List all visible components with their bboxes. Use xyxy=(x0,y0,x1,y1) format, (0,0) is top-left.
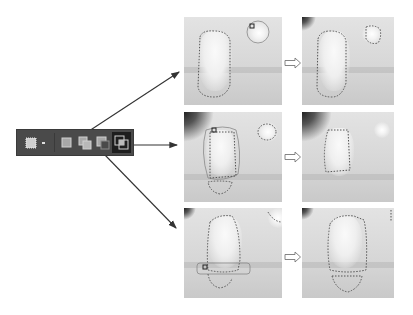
selection-marquee xyxy=(184,208,282,298)
new-selection-icon[interactable] xyxy=(60,135,74,149)
subtract-from-selection-icon[interactable] xyxy=(96,135,110,149)
selection-mode-toolbar xyxy=(17,130,133,155)
selection-marquee xyxy=(184,17,282,105)
before-image-intersect xyxy=(184,112,282,202)
after-image-intersect xyxy=(302,112,394,202)
hollow-right-arrow-icon xyxy=(284,251,302,263)
hollow-right-arrow-icon xyxy=(284,151,302,163)
add-to-selection-icon[interactable] xyxy=(78,135,92,149)
marquee-selection-tool-icon[interactable] xyxy=(24,135,38,149)
intersect-with-selection-icon[interactable] xyxy=(112,132,131,153)
after-image-subtract xyxy=(302,208,394,298)
selection-result xyxy=(302,208,394,298)
after-image-add xyxy=(302,17,394,105)
dropdown-dot-icon[interactable] xyxy=(41,135,47,149)
selection-marquee xyxy=(184,112,282,202)
selection-result xyxy=(302,112,394,202)
arrow-to-row-1 xyxy=(89,72,179,131)
hollow-right-arrow-icon xyxy=(284,57,302,69)
toolbar-divider xyxy=(54,133,55,152)
arrow-to-row-3 xyxy=(104,154,176,228)
before-image-subtract xyxy=(184,208,282,298)
before-image-add xyxy=(184,17,282,105)
selection-result xyxy=(302,17,394,105)
